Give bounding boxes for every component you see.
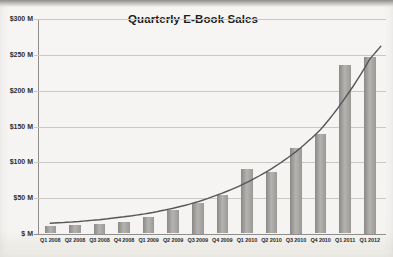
x-axis-tick-label: Q4 2009 — [212, 237, 232, 243]
x-axis-tick-label: Q2 2010 — [261, 237, 281, 243]
x-axis-tick-label: Q2 2008 — [65, 237, 85, 243]
y-axis-tick-label: $200 M — [0, 87, 33, 94]
y-axis-tick-label: $250 M — [0, 51, 33, 58]
x-axis-tick-label: Q3 2009 — [187, 237, 207, 243]
x-axis-tick-label: Q3 2008 — [89, 237, 109, 243]
x-axis-tick-label: Q1 2012 — [359, 237, 379, 243]
chart-screenshot: Quarterly E-Book Sales $ M$50 M$100 M$15… — [0, 0, 393, 257]
photo-top-edge — [0, 0, 393, 7]
x-axis-tick-label: Q1 2008 — [40, 237, 60, 243]
x-axis-tick-label: Q4 2008 — [114, 237, 134, 243]
trendline-curve — [38, 19, 382, 234]
y-axis-tick-label: $ M — [0, 230, 33, 237]
x-axis-tick-label: Q3 2010 — [286, 237, 306, 243]
x-axis-tick-label: Q1 2011 — [335, 237, 355, 243]
y-axis-tick-label: $50 M — [0, 194, 33, 201]
x-axis-line — [34, 234, 386, 235]
y-axis-tick-label: $100 M — [0, 158, 33, 165]
y-axis-tick-label: $300 M — [0, 15, 33, 22]
x-axis-tick-label: Q2 2009 — [163, 237, 183, 243]
x-axis-tick-label: Q4 2010 — [310, 237, 330, 243]
x-axis-tick-label: Q1 2009 — [138, 237, 158, 243]
y-axis-tick-label: $150 M — [0, 123, 33, 130]
x-axis-tick-label: Q1 2010 — [237, 237, 257, 243]
